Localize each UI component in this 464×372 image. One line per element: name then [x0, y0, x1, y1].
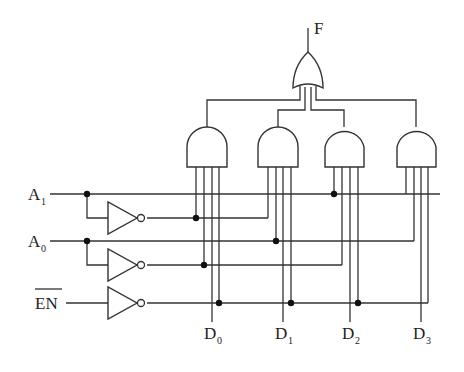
output-f-label: F	[314, 19, 323, 38]
svg-text:3: 3	[426, 335, 431, 346]
svg-text:1: 1	[288, 335, 293, 346]
input-label-a1: A 1	[28, 185, 46, 207]
input-label-a0: A 0	[28, 232, 46, 254]
inverter-branch-wires	[87, 194, 108, 265]
svg-text:0: 0	[41, 243, 46, 254]
svg-text:2: 2	[355, 335, 360, 346]
svg-text:A: A	[28, 185, 41, 204]
junction-dots	[84, 191, 361, 306]
svg-text:D: D	[413, 324, 425, 343]
output-f: F	[308, 19, 323, 52]
and-gate-2	[325, 131, 364, 167]
inverter-a0	[108, 249, 145, 281]
data-label-d2: D 2	[342, 324, 360, 346]
or-gate	[293, 52, 323, 88]
and-gate-2-pins	[334, 167, 358, 322]
and-gate-0	[187, 127, 227, 167]
and-gate-1-pins	[268, 167, 291, 322]
and-gate-3-pins	[406, 167, 428, 322]
svg-text:D: D	[342, 324, 354, 343]
svg-text:D: D	[275, 324, 287, 343]
and-gate-0-pins	[196, 167, 219, 322]
input-label-en: EN	[35, 289, 62, 313]
and-gate-1	[258, 127, 298, 167]
data-label-d3: D 3	[413, 324, 431, 346]
or-input-wires	[207, 86, 416, 127]
inverter-en	[108, 287, 145, 319]
and-gate-3	[397, 131, 436, 167]
inverter-a1	[108, 202, 145, 234]
svg-text:A: A	[28, 232, 41, 251]
svg-text:1: 1	[41, 196, 46, 207]
data-label-d0: D 0	[204, 324, 222, 346]
logic-circuit-diagram: F	[0, 0, 464, 372]
svg-text:EN: EN	[35, 294, 58, 313]
svg-text:0: 0	[217, 335, 222, 346]
svg-text:D: D	[204, 324, 216, 343]
data-label-d1: D 1	[275, 324, 293, 346]
